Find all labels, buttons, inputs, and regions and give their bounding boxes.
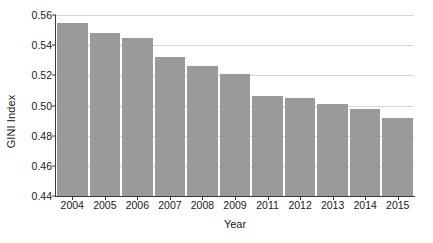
- y-axis-tick-label: 0.44: [16, 190, 52, 202]
- y-axis-tick-label: 0.56: [16, 9, 52, 21]
- y-axis-tick-mark: [52, 196, 56, 197]
- x-axis-tick-labels: 2004200520062007200820092011201220132014…: [56, 199, 414, 219]
- x-axis-tick-mark: [72, 196, 73, 200]
- y-axis-tick-mark: [52, 45, 56, 46]
- x-axis-tick-label: 2006: [126, 199, 149, 211]
- y-axis-tick-label: 0.48: [16, 130, 52, 142]
- bar: [382, 118, 413, 196]
- bar: [220, 74, 251, 196]
- y-axis-tick-mark: [52, 105, 56, 106]
- y-axis-tick-labels: 0.440.460.480.500.520.540.56: [16, 0, 52, 243]
- x-axis-tick-label: 2015: [386, 199, 409, 211]
- y-axis-tick-mark: [52, 75, 56, 76]
- x-axis-title: Year: [56, 218, 414, 230]
- x-axis-tick-label: 2004: [61, 199, 84, 211]
- x-axis-tick-label: 2011: [256, 199, 279, 211]
- bar: [285, 98, 316, 196]
- x-axis-tick-label: 2009: [223, 199, 246, 211]
- bars-layer: [56, 15, 414, 196]
- x-axis-tick-mark: [300, 196, 301, 200]
- x-axis-tick-label: 2005: [93, 199, 116, 211]
- bar: [350, 109, 381, 196]
- x-axis-tick-mark: [398, 196, 399, 200]
- bar: [122, 38, 153, 196]
- y-axis-tick-label: 0.52: [16, 69, 52, 81]
- x-axis-tick-label: 2008: [191, 199, 214, 211]
- x-axis-tick-label: 2012: [288, 199, 311, 211]
- x-axis-tick-mark: [105, 196, 106, 200]
- x-axis-tick-label: 2007: [158, 199, 181, 211]
- x-axis-tick-label: 2014: [353, 199, 376, 211]
- y-axis-tick-label: 0.46: [16, 160, 52, 172]
- plot-area: [56, 15, 414, 196]
- bar: [90, 33, 121, 196]
- x-axis-tick-mark: [333, 196, 334, 200]
- y-axis-tick-mark: [52, 135, 56, 136]
- y-axis-tick-label: 0.54: [16, 39, 52, 51]
- y-axis-tick-mark: [52, 15, 56, 16]
- bar: [317, 104, 348, 196]
- y-axis-tick-mark: [52, 165, 56, 166]
- bar: [187, 66, 218, 196]
- x-axis-tick-mark: [365, 196, 366, 200]
- y-axis-tick-label: 0.50: [16, 100, 52, 112]
- bar: [57, 23, 88, 196]
- x-axis-tick-mark: [170, 196, 171, 200]
- bar: [155, 57, 186, 196]
- x-axis-tick-mark: [202, 196, 203, 200]
- x-axis-tick-mark: [235, 196, 236, 200]
- bar: [252, 96, 283, 196]
- x-axis-tick-label: 2013: [321, 199, 344, 211]
- x-axis-tick-mark: [137, 196, 138, 200]
- gini-index-bar-chart: GINI Index 0.440.460.480.500.520.540.56 …: [0, 0, 433, 243]
- x-axis-tick-mark: [268, 196, 269, 200]
